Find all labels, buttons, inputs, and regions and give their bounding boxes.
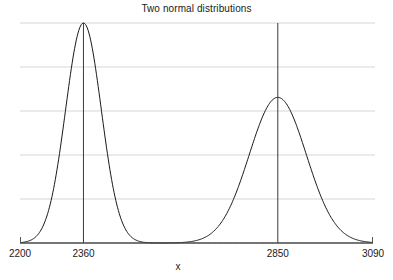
curve-distribution-2	[20, 97, 373, 243]
gridlines-group	[20, 23, 375, 199]
x-tick-label-2200: 2200	[9, 248, 31, 259]
curves-group	[20, 23, 373, 243]
plot-area	[0, 0, 393, 280]
x-tick-label-3090: 3090	[362, 248, 384, 259]
curve-distribution-1	[20, 23, 373, 243]
mean-lines-group	[83, 23, 277, 243]
chart-container: Two normal distributions 2200 2360 2850 …	[0, 0, 393, 280]
x-axis-title: x	[176, 261, 181, 272]
x-tick-label-2850: 2850	[267, 248, 289, 259]
x-tick-label-2360: 2360	[72, 248, 94, 259]
